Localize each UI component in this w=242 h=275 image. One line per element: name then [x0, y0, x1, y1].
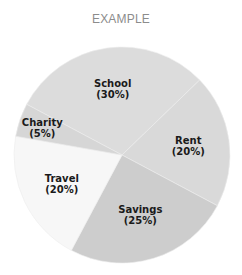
slice-percent-charity: (5%): [29, 128, 55, 139]
slice-label-travel: Travel: [45, 173, 79, 184]
pie-chart: School(30%)Rent(20%)Savings(25%)Travel(2…: [0, 0, 242, 275]
slice-label-charity: Charity: [22, 117, 63, 128]
slice-percent-school: (30%): [96, 89, 129, 100]
slice-label-savings: Savings: [118, 204, 162, 215]
slice-percent-savings: (25%): [124, 215, 157, 226]
slice-percent-travel: (20%): [45, 184, 78, 195]
slice-label-rent: Rent: [175, 135, 202, 146]
slice-label-school: School: [94, 78, 131, 89]
slice-percent-rent: (20%): [172, 146, 205, 157]
